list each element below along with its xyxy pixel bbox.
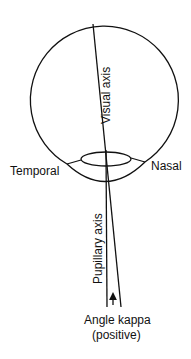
nasal-label: Nasal bbox=[151, 159, 182, 173]
angle-kappa-positive-label: (positive) bbox=[92, 328, 141, 342]
temporal-label: Temporal bbox=[10, 164, 59, 178]
lens-zonule-left bbox=[67, 160, 81, 164]
lens-zonule-right bbox=[131, 158, 145, 162]
pupillary-axis-line bbox=[106, 150, 107, 307]
pupillary-axis-label: Pupillary axis bbox=[91, 213, 105, 284]
visual-axis-label: Visual axis bbox=[99, 67, 113, 124]
angle-kappa-label: Angle kappa bbox=[84, 313, 151, 327]
eye-diagram: Visual axis Temporal Nasal Pupillary axi… bbox=[0, 0, 191, 359]
